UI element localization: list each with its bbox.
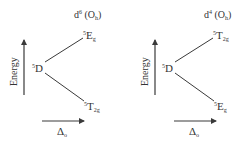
center-term-symbol: D — [165, 62, 173, 74]
lower-term-symbol: E — [217, 100, 224, 112]
upper-term-label: 5Eg — [83, 30, 96, 43]
config-electrons: 6 — [79, 9, 82, 15]
lower-term-symbol: T — [87, 100, 94, 112]
upper-split-line — [175, 38, 213, 62]
panel-d4: d4 (Oh) Energy 5D 5T2g 5Eg Δo — [130, 0, 248, 144]
config-symmetry-sub: h — [95, 15, 98, 21]
config-symmetry: (O — [85, 9, 96, 20]
lower-term-multiplicity: 5 — [214, 101, 217, 107]
config-close: ) — [98, 9, 101, 20]
center-term-label: 5D — [162, 63, 173, 76]
upper-term-sub: g — [93, 36, 96, 42]
energy-axis-label: Energy — [139, 57, 150, 86]
center-term-multiplicity: 5 — [32, 63, 35, 69]
delta-sub: o — [196, 132, 199, 138]
config-symmetry: (O — [215, 9, 226, 20]
delta-axis-label: Δo — [57, 126, 67, 139]
lower-term-sub: g — [224, 107, 227, 113]
lower-term-sub: 2g — [94, 107, 100, 113]
upper-term-symbol: E — [86, 29, 93, 41]
upper-term-label: 5T2g — [213, 30, 229, 43]
upper-term-symbol: T — [216, 29, 223, 41]
config-label: d6 (Oh) — [74, 9, 101, 22]
center-term-label: 5D — [32, 63, 43, 76]
panel-d6: d6 (Oh) Energy 5D 5Eg 5T2g Δo — [0, 0, 124, 144]
delta-sub: o — [64, 132, 67, 138]
lower-split-line — [175, 73, 214, 101]
center-term-symbol: D — [35, 62, 43, 74]
config-electrons: 4 — [209, 9, 212, 15]
lower-split-line — [45, 73, 84, 101]
upper-split-line — [45, 38, 83, 62]
config-label: d4 (Oh) — [204, 9, 231, 22]
config-close: ) — [228, 9, 231, 20]
upper-term-sub: 2g — [223, 36, 229, 42]
center-term-multiplicity: 5 — [162, 63, 165, 69]
upper-term-multiplicity: 5 — [213, 30, 216, 36]
upper-term-multiplicity: 5 — [83, 30, 86, 36]
energy-axis-label: Energy — [8, 57, 19, 86]
lower-term-multiplicity: 5 — [84, 101, 87, 107]
lower-term-label: 5Eg — [214, 101, 227, 114]
delta-axis-label: Δo — [189, 126, 199, 139]
lower-term-label: 5T2g — [84, 101, 100, 114]
config-symmetry-sub: h — [225, 15, 228, 21]
